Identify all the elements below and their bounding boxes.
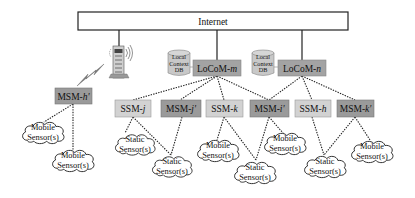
sensor-cloud-mobile-1: Mobile Sensor(s) bbox=[23, 122, 64, 143]
locom-n-node: LoCoM-n bbox=[278, 60, 326, 76]
svg-text:MSM-i': MSM-i' bbox=[254, 104, 285, 114]
ssm-k-node: SSM-k bbox=[206, 100, 243, 117]
sensor-cloud-static-3: Static Sensor(s) bbox=[235, 162, 276, 183]
svg-text:SSM-k: SSM-k bbox=[211, 104, 238, 114]
svg-text:MSM-k': MSM-k' bbox=[340, 104, 373, 114]
svg-text:Sensor(s): Sensor(s) bbox=[239, 173, 271, 182]
network-architecture-diagram: Internet bbox=[0, 0, 415, 198]
sensor-cloud-mobile-3: Mobile Sensor(s) bbox=[198, 140, 239, 161]
cell-tower-icon bbox=[109, 45, 133, 78]
svg-text:MSM-h': MSM-h' bbox=[57, 92, 90, 102]
svg-text:Sensor(s): Sensor(s) bbox=[27, 133, 59, 142]
uplink-lines bbox=[119, 30, 302, 60]
msm-k-prime-node: MSM-k' bbox=[337, 100, 374, 117]
svg-text:Mobile: Mobile bbox=[273, 134, 297, 143]
svg-text:Sensor(s): Sensor(s) bbox=[57, 161, 89, 170]
sensor-cloud-static-4: Static Sensor(s) bbox=[305, 156, 346, 177]
svg-text:LoCoM-m: LoCoM-m bbox=[197, 64, 237, 74]
svg-text:Mobile: Mobile bbox=[206, 141, 230, 150]
svg-text:LoCoM-n: LoCoM-n bbox=[283, 64, 321, 74]
msm-h-prime-node: MSM-h' bbox=[55, 88, 92, 104]
wireless-lightning-icon bbox=[77, 64, 104, 86]
svg-text:Mobile: Mobile bbox=[31, 123, 55, 132]
local-context-db-m: Local Context DB bbox=[168, 50, 190, 76]
svg-text:Static: Static bbox=[315, 157, 334, 166]
svg-text:Sensor(s): Sensor(s) bbox=[309, 167, 341, 176]
svg-text:MSM-j': MSM-j' bbox=[166, 104, 197, 114]
msm-i-prime-node: MSM-i' bbox=[250, 100, 289, 117]
svg-text:DB: DB bbox=[259, 66, 268, 73]
msm-j-prime-node: MSM-j' bbox=[161, 100, 201, 117]
svg-text:Static: Static bbox=[125, 135, 144, 144]
ssm-j-node: SSM-j bbox=[115, 100, 151, 117]
svg-text:Static: Static bbox=[245, 163, 264, 172]
local-context-db-n: Local Context DB bbox=[252, 50, 274, 76]
svg-text:Sensor(s): Sensor(s) bbox=[119, 145, 151, 154]
svg-text:Mobile: Mobile bbox=[61, 151, 85, 160]
svg-text:DB: DB bbox=[175, 66, 184, 73]
svg-text:SSM-j: SSM-j bbox=[121, 104, 146, 114]
sensor-cloud-mobile-2: Mobile Sensor(s) bbox=[53, 150, 94, 171]
svg-text:Mobile: Mobile bbox=[360, 142, 384, 151]
svg-text:Sensor(s): Sensor(s) bbox=[156, 167, 188, 176]
sensor-cloud-mobile-4: Mobile Sensor(s) bbox=[265, 133, 306, 154]
ssm-h-node: SSM-h bbox=[295, 100, 331, 117]
internet-backbone: Internet bbox=[78, 12, 348, 30]
svg-text:Sensor(s): Sensor(s) bbox=[356, 152, 388, 161]
svg-text:Sensor(s): Sensor(s) bbox=[202, 151, 234, 160]
svg-text:Sensor(s): Sensor(s) bbox=[269, 144, 301, 153]
svg-text:SSM-h: SSM-h bbox=[300, 104, 327, 114]
locom-m-node: LoCoM-m bbox=[193, 60, 241, 76]
sensor-cloud-mobile-5: Mobile Sensor(s) bbox=[352, 141, 393, 162]
internet-label: Internet bbox=[198, 17, 228, 27]
svg-text:Static: Static bbox=[162, 157, 181, 166]
sensor-cloud-static-1: Static Sensor(s) bbox=[115, 135, 155, 155]
sensor-cloud-static-2: Static Sensor(s) bbox=[152, 157, 192, 177]
